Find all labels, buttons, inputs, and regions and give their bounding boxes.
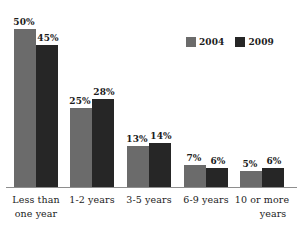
x-tick-label-line1: 10 or more <box>235 194 289 205</box>
bar-value-label: 6% <box>259 156 289 166</box>
bar-2004: 7% <box>184 165 206 187</box>
bar-2009: 28% <box>92 99 114 187</box>
bar-2004: 5% <box>240 171 262 187</box>
plot-area: 50% 45% 25% 28% 13% 14% 7% <box>0 0 303 188</box>
x-tick-label-line2: one year <box>1 207 71 221</box>
x-tick-label-line1: 3-5 years <box>126 194 171 205</box>
x-tick-label-4: 10 or more years <box>227 193 297 220</box>
bar-2004: 50% <box>14 29 36 187</box>
x-axis-baseline <box>6 187 297 188</box>
x-tick-label-line2: years <box>227 207 297 221</box>
bar-2009: 45% <box>36 45 58 187</box>
bar-2009: 6% <box>206 168 228 187</box>
bar-value-label: 14% <box>146 131 176 141</box>
bar-value-label: 6% <box>203 156 233 166</box>
bar-2009: 6% <box>262 168 284 187</box>
bar-value-label: 28% <box>89 87 119 97</box>
x-axis-labels: Less than one year 1-2 years 3-5 years 6… <box>0 193 303 238</box>
bar-2004: 13% <box>127 146 149 187</box>
bar-value-label: 25% <box>65 96 95 106</box>
bar-value-label: 50% <box>9 17 39 27</box>
bar-chart: 2004 2009 50% 45% 25% 28% 13% <box>0 0 303 238</box>
x-tick-label-line1: Less than <box>12 194 59 205</box>
bar-2009: 14% <box>149 143 171 187</box>
bar-2004: 25% <box>70 108 92 187</box>
bar-value-label: 45% <box>33 33 63 43</box>
x-tick-label-line1: 1-2 years <box>69 194 114 205</box>
x-tick-label-line1: 6-9 years <box>183 194 228 205</box>
